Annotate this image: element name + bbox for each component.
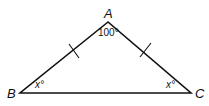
vertex-label-c: C: [195, 87, 204, 100]
angle-label-c: x°: [166, 80, 175, 90]
angle-label-a: 100°: [98, 28, 119, 38]
vertex-label-a: A: [104, 7, 113, 20]
angle-label-b: x°: [35, 80, 44, 90]
vertex-label-b: B: [7, 87, 16, 100]
